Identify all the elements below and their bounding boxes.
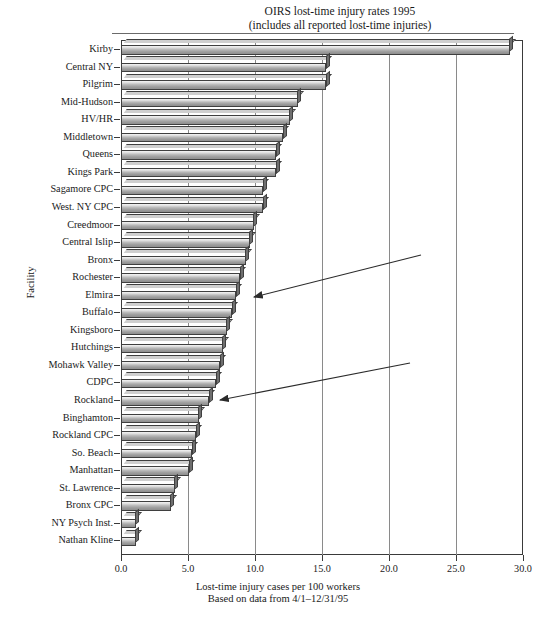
y-tick-label-creedmoor: Creedmoor (21, 219, 113, 230)
bar-end-cap (283, 123, 287, 139)
y-tick-label-mid-hudson: Mid-Hudson (21, 96, 113, 107)
bar-end-cap (326, 53, 330, 69)
bar-manhattan (121, 466, 189, 475)
y-tick-label-st-lawrence: St. Lawrence (21, 482, 113, 493)
bar-end-cap (135, 527, 139, 543)
bar-top-face (124, 126, 289, 130)
y-tick-label-kings-park: Kings Park (21, 166, 113, 177)
y-tick-mark (114, 523, 120, 524)
bar-end-cap (245, 246, 249, 262)
y-tick-label-binghamton: Binghamton (21, 412, 113, 423)
bar-middletown (121, 133, 283, 142)
y-tick-mark (114, 365, 120, 366)
bar-top-face (124, 197, 269, 201)
y-tick-label-ny-psych-inst: NY Psych Inst. (21, 517, 113, 528)
bar-end-cap (276, 158, 280, 174)
bar-end-cap (263, 193, 267, 209)
bar-top-face (124, 74, 332, 78)
y-tick-mark (114, 488, 120, 489)
bar-top-face (124, 460, 195, 464)
x-tick-label-5: 25.0 (436, 563, 476, 574)
y-tick-mark (114, 470, 120, 471)
y-tick-mark (114, 119, 120, 120)
bar-top-face (124, 477, 180, 481)
y-tick-label-middletown: Middletown (21, 131, 113, 142)
x-tick-mark-3 (322, 555, 323, 561)
bar-end-cap (240, 263, 244, 279)
bar-end-cap (170, 492, 174, 508)
y-tick-mark (114, 418, 120, 419)
bar-row (121, 481, 523, 499)
bar-top-face (124, 179, 269, 183)
y-tick-label-manhattan: Manhattan (21, 464, 113, 475)
y-tick-mark (114, 382, 120, 383)
bar-creedmoor (121, 221, 254, 230)
bar-top-face (124, 214, 259, 218)
y-tick-label-nathan-kline: Nathan Kline (21, 534, 113, 545)
bar-end-cap (196, 421, 200, 437)
y-tick-mark (114, 277, 120, 278)
bar-row (121, 533, 523, 551)
plot-area (121, 40, 523, 555)
bar-sagamore-cpc (121, 186, 263, 195)
bar-buffalo (121, 308, 232, 317)
y-tick-mark (114, 330, 120, 331)
y-tick-label-hv-hr: HV/HR (21, 113, 113, 124)
bar-end-cap (198, 404, 202, 420)
bar-cdpc (121, 379, 216, 388)
x-tick-mark-4 (389, 555, 390, 561)
bar-west-ny-cpc (121, 203, 263, 212)
y-tick-mark (114, 102, 120, 103)
bar-top-face (124, 407, 205, 411)
bar-top-face (124, 337, 229, 341)
y-tick-label-rockland: Rockland (21, 394, 113, 405)
bar-end-cap (263, 176, 267, 192)
x-tick-label-1: 5.0 (168, 563, 208, 574)
x-tick-mark-5 (456, 555, 457, 561)
bar-kings-park (121, 168, 276, 177)
y-tick-label-central-ny: Central NY (21, 61, 113, 72)
bar-end-cap (249, 228, 253, 244)
bar-top-face (124, 302, 238, 306)
chart-root: OIRS lost-time injury rates 1995 (includ… (0, 0, 556, 621)
bar-central-islip (121, 238, 250, 247)
bar-st-lawrence (121, 484, 175, 493)
y-tick-label-rockland-cpc: Rockland CPC (21, 429, 113, 440)
y-tick-mark (114, 67, 120, 68)
y-tick-label-central-islip: Central Islip (21, 236, 113, 247)
bar-mohawk-valley (121, 361, 220, 370)
y-tick-mark (114, 49, 120, 50)
bar-end-cap (297, 88, 301, 104)
x-tick-label-3: 15.0 (302, 563, 342, 574)
y-tick-mark (114, 189, 120, 190)
y-tick-label-elmira: Elmira (21, 289, 113, 300)
x-tick-label-2: 10.0 (235, 563, 275, 574)
bar-top-face (124, 390, 215, 394)
y-tick-mark (114, 295, 120, 296)
y-tick-label-bronx-cpc: Bronx CPC (21, 499, 113, 510)
bar-binghamton (121, 414, 199, 423)
bar-top-face (124, 495, 176, 499)
bar-elmira (121, 291, 236, 300)
y-tick-mark (114, 435, 120, 436)
y-tick-label-queens: Queens (21, 148, 113, 159)
y-tick-mark (114, 505, 120, 506)
bar-rockland (121, 396, 209, 405)
bar-top-face (124, 91, 304, 95)
y-tick-mark (114, 453, 120, 454)
bar-top-face (124, 56, 332, 60)
bar-top-face (124, 372, 222, 376)
y-tick-mark (114, 172, 120, 173)
y-tick-label-mohawk-valley: Mohawk Valley (21, 359, 113, 370)
bar-top-face (124, 232, 255, 236)
bar-row (121, 463, 523, 481)
y-tick-label-pilgrim: Pilgrim (21, 78, 113, 89)
bar-end-cap (289, 106, 293, 122)
bar-end-cap (509, 35, 513, 51)
bar-end-cap (276, 141, 280, 157)
y-tick-label-rochester: Rochester (21, 271, 113, 282)
bar-bronx-cpc (121, 501, 171, 510)
bar-top-face (124, 267, 246, 271)
x-tick-mark-0 (121, 555, 122, 561)
bar-row (121, 498, 523, 516)
